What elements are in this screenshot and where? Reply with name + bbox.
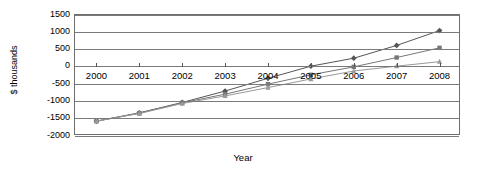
x-axis-tick [182, 63, 183, 67]
x-axis-tick [440, 63, 441, 67]
x-axis-year-label: 2004 [257, 71, 278, 81]
y-axis-tick-label: 500 [34, 44, 70, 53]
x-axis-tick [354, 63, 355, 67]
y-axis-tick-label: 1000 [34, 27, 70, 36]
y-axis-tick-label: -1500 [34, 113, 70, 122]
x-axis-year-label: 2003 [215, 71, 236, 81]
x-axis-tick [311, 63, 312, 67]
diamond-marker [351, 55, 357, 61]
gridline [75, 15, 459, 16]
x-axis-year-label: 2008 [429, 71, 450, 81]
gridline [75, 136, 459, 137]
chart-container: $ thousands 150010005000-500-1000-1500-2… [0, 0, 486, 175]
y-axis-title: $ thousands [6, 0, 22, 140]
y-axis-tick-label: -1000 [34, 96, 70, 105]
x-axis-year-label: 2005 [300, 71, 321, 81]
y-axis-tick-label: -2000 [34, 131, 70, 140]
x-axis-year-label: 2007 [386, 71, 407, 81]
y-axis-tick-label: -500 [34, 79, 70, 88]
x-axis-title: Year [0, 152, 486, 163]
x-axis-tick [96, 63, 97, 67]
y-axis-tick-label: 0 [34, 61, 70, 70]
x-axis-tick [139, 63, 140, 67]
x-axis-year-label: 2001 [129, 71, 150, 81]
gridline [75, 84, 459, 85]
gridline [75, 101, 459, 102]
diamond-marker [394, 43, 400, 49]
x-axis-tick [397, 63, 398, 67]
y-axis-tick-label: 1500 [34, 10, 70, 19]
x-axis-year-label: 2000 [86, 71, 107, 81]
plot-area: 200020012002200320042005200620072008 [74, 14, 460, 135]
x-axis-tick [268, 63, 269, 67]
x-axis-year-label: 2006 [343, 71, 364, 81]
y-axis-tick-labels: 150010005000-500-1000-1500-2000 [30, 0, 70, 175]
x-axis-year-label: 2002 [172, 71, 193, 81]
gridline [75, 66, 459, 67]
series-3 [94, 59, 442, 123]
gridline [75, 32, 459, 33]
gridline [75, 118, 459, 119]
square-marker [394, 55, 398, 59]
gridline [75, 49, 459, 50]
x-axis-tick [225, 63, 226, 67]
